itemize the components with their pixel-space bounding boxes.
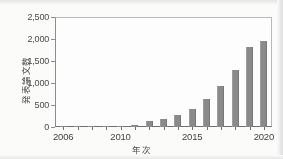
x-tick-label: 2006 <box>53 131 73 142</box>
x-tick-mark <box>207 127 208 130</box>
x-axis-title: 年次 <box>0 143 283 155</box>
bar <box>160 119 167 127</box>
y-tick-label: 2,000 <box>27 34 49 44</box>
bar <box>232 70 239 127</box>
x-tick-mark <box>135 127 136 130</box>
x-tick-mark <box>192 127 193 130</box>
bar-chart-figure: 05001,0001,5002,0002,500 発表論文数 200620102… <box>0 0 283 159</box>
y-tick-mark <box>51 127 55 128</box>
y-tick-label: 0 <box>44 122 49 132</box>
bars-group <box>56 18 271 127</box>
y-tick-label: 500 <box>35 100 49 110</box>
bar <box>260 41 267 127</box>
x-tick-mark <box>78 127 79 130</box>
x-tick-mark <box>178 127 179 130</box>
x-tick-mark <box>106 127 107 130</box>
x-tick-mark <box>149 127 150 130</box>
x-tick-mark <box>250 127 251 130</box>
x-tick-mark <box>221 127 222 130</box>
x-tick-mark <box>121 127 122 130</box>
bar <box>246 47 253 127</box>
x-tick-label: 2015 <box>182 131 202 142</box>
y-axis-title: 発表論文数 <box>19 56 31 104</box>
x-tick-mark <box>235 127 236 130</box>
x-tick-label: 2020 <box>254 131 274 142</box>
x-tick-mark <box>92 127 93 130</box>
bar <box>174 115 181 127</box>
x-tick-label: 2010 <box>110 131 130 142</box>
x-tick-mark <box>264 127 265 130</box>
y-tick-label: 2,500 <box>27 12 49 22</box>
bar <box>217 86 224 127</box>
x-tick-mark <box>63 127 64 130</box>
bar <box>189 109 196 127</box>
bar <box>203 99 210 127</box>
x-tick-mark <box>164 127 165 130</box>
